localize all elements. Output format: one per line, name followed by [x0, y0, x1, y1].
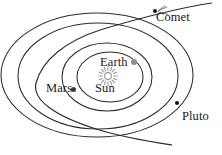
- label-mars: Mars: [46, 82, 72, 95]
- label-comet: Comet: [156, 11, 190, 24]
- earth-dot-icon: [131, 59, 137, 65]
- label-sun: Sun: [95, 82, 115, 95]
- solar-system-diagram: Comet Earth Sun Mars Pluto: [0, 0, 222, 155]
- label-pluto: Pluto: [182, 110, 209, 123]
- label-earth: Earth: [100, 56, 128, 69]
